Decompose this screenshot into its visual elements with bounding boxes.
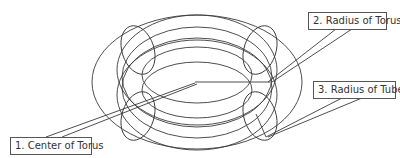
callout-leader-radius-torus bbox=[268, 29, 336, 82]
label-radius-of-tube: 3. Radius of Tube bbox=[313, 81, 396, 99]
tube-section-left-top bbox=[115, 21, 161, 78]
callout-leader-center-2 bbox=[62, 84, 197, 137]
inner-hole-top bbox=[142, 47, 252, 103]
label-center-of-torus: 1. Center of Torus bbox=[10, 137, 92, 155]
tube-radius-line bbox=[256, 114, 266, 137]
label-radius-of-torus: 2. Radius of Torus bbox=[308, 12, 387, 30]
inner-hole-bottom bbox=[142, 62, 252, 118]
bottom-outer-rim bbox=[117, 40, 277, 150]
tube-section-left-bottom bbox=[115, 87, 161, 144]
callout-leader-radius-tube bbox=[266, 98, 342, 137]
callout-leader-center bbox=[46, 83, 195, 137]
callout-leader-radius-torus-2 bbox=[272, 29, 352, 82]
callout-leader-radius-tube-2 bbox=[268, 98, 362, 137]
